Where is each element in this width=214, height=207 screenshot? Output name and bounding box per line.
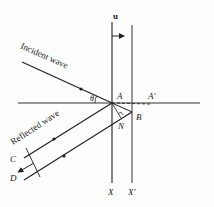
label-reflected: Reflected wave [9,108,61,147]
label-C: C [10,154,17,164]
label-X: X [107,187,114,197]
diagram-canvas: u Incident wave Reflected wave θ A A′ B … [0,0,214,207]
incident-ray [22,62,112,103]
label-theta: θ [90,94,94,103]
label-N: N [117,121,125,131]
label-X-prime: X′ [127,187,136,197]
reflected-direction-arrow [20,163,34,171]
moving-mirror-diagram: u Incident wave Reflected wave θ A A′ B … [0,0,214,207]
reflected-arrow-icon-2 [62,154,65,157]
label-B: B [136,112,142,122]
theta-arc [95,96,97,103]
label-D: D [9,173,17,183]
label-A: A [116,91,123,101]
label-A-prime: A′ [147,91,156,101]
label-incident: Incident wave [19,41,69,71]
reflected-arrow-icon-1 [52,137,55,140]
label-u: u [113,11,118,21]
incident-arrow-icon [79,87,82,90]
